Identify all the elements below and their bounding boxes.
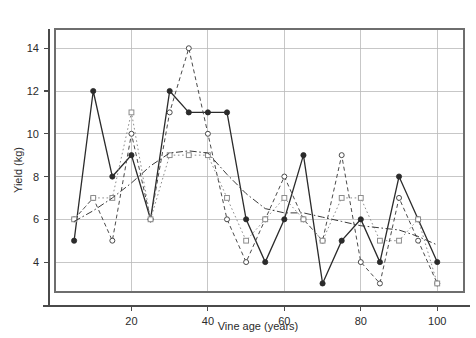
series-series-4-trend: [74, 151, 437, 245]
line-chart: 468101214 20406080100 Yield (kg) Vine ag…: [0, 0, 476, 338]
x-tick-label: 100: [428, 315, 446, 327]
data-point-filled-circle: [91, 88, 96, 93]
data-point-open-circle: [282, 174, 287, 179]
data-point-open-square: [339, 196, 344, 201]
data-point-open-circle: [167, 110, 172, 115]
y-tick-label: 4: [33, 256, 39, 268]
x-tick-label: 80: [355, 315, 367, 327]
series-layer: [72, 46, 440, 286]
data-point-open-square: [225, 196, 230, 201]
data-point-filled-circle: [320, 281, 325, 286]
axis-lines: [43, 29, 470, 311]
data-point-open-circle: [377, 281, 382, 286]
data-point-open-circle: [129, 131, 134, 136]
series-series-3: [72, 110, 440, 286]
data-point-filled-circle: [396, 174, 401, 179]
data-point-filled-circle: [263, 259, 268, 264]
data-point-filled-circle: [224, 110, 229, 115]
data-point-open-square: [186, 153, 191, 158]
data-point-filled-circle: [435, 259, 440, 264]
data-point-open-square: [397, 238, 402, 243]
data-point-filled-circle: [129, 153, 134, 158]
data-point-open-square: [244, 238, 249, 243]
series-series-2: [72, 46, 440, 286]
x-tick-label: 40: [202, 315, 214, 327]
chart-container: 468101214 20406080100 Yield (kg) Vine ag…: [0, 0, 476, 338]
x-axis-label: Vine age (years): [218, 320, 299, 332]
data-point-open-square: [378, 238, 383, 243]
y-tick-label: 8: [33, 171, 39, 183]
data-point-filled-circle: [282, 217, 287, 222]
data-point-open-square: [358, 196, 363, 201]
data-point-open-circle: [244, 260, 249, 265]
series-series-1: [72, 88, 440, 286]
data-point-open-circle: [186, 46, 191, 51]
data-point-open-square: [91, 196, 96, 201]
plot-border: [55, 29, 464, 292]
data-point-open-square: [320, 238, 325, 243]
data-point-open-square: [148, 217, 153, 222]
gridlines: [55, 29, 464, 292]
data-point-filled-circle: [167, 88, 172, 93]
data-point-open-circle: [110, 238, 115, 243]
data-point-open-square: [282, 196, 287, 201]
data-point-open-circle: [205, 131, 210, 136]
data-point-open-circle: [397, 195, 402, 200]
data-point-filled-circle: [205, 110, 210, 115]
data-point-open-square: [263, 217, 268, 222]
data-point-open-square: [416, 217, 421, 222]
series-line: [74, 112, 437, 283]
y-tick-labels: 468101214: [27, 42, 39, 268]
y-tick-label: 6: [33, 213, 39, 225]
data-point-filled-circle: [186, 110, 191, 115]
y-axis-label: Yield (kg): [12, 147, 24, 193]
data-point-open-square: [301, 217, 306, 222]
y-tick-label: 10: [27, 128, 39, 140]
data-point-filled-circle: [377, 259, 382, 264]
data-point-open-circle: [358, 260, 363, 265]
data-point-open-square: [129, 110, 134, 115]
data-point-open-square: [435, 281, 440, 286]
x-tick-label: 20: [125, 315, 137, 327]
data-point-filled-circle: [339, 238, 344, 243]
data-point-open-square: [167, 153, 172, 158]
data-point-open-circle: [416, 238, 421, 243]
data-point-filled-circle: [110, 174, 115, 179]
data-point-filled-circle: [301, 153, 306, 158]
data-point-filled-circle: [358, 217, 363, 222]
data-point-open-circle: [225, 217, 230, 222]
data-point-filled-circle: [72, 238, 77, 243]
y-tick-label: 14: [27, 42, 39, 54]
data-point-open-circle: [339, 153, 344, 158]
data-point-filled-circle: [244, 217, 249, 222]
y-tick-label: 12: [27, 85, 39, 97]
series-line: [74, 151, 437, 245]
series-line: [74, 91, 437, 283]
